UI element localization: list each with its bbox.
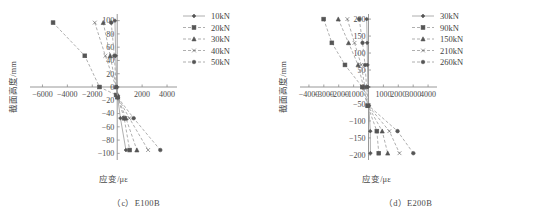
- data-point-marker: [387, 129, 391, 133]
- data-point-marker: [396, 129, 400, 133]
- legend-label: 150kN: [440, 34, 463, 44]
- series-260kN: [357, 17, 415, 155]
- x-tick-label: 3000: [405, 90, 421, 99]
- y-tick-label: −50: [353, 100, 366, 109]
- data-point-marker: [365, 85, 369, 89]
- data-point-marker: [330, 41, 334, 45]
- x-tick-label: 4000: [420, 90, 436, 99]
- data-point-marker: [363, 63, 367, 67]
- data-point-marker: [135, 148, 139, 152]
- data-point-marker: [113, 54, 117, 58]
- x-axis-title: 应变/με: [362, 174, 391, 184]
- chart-panel-d: −4000−3000−2000−100010002000300040002001…: [272, 0, 544, 212]
- series-20kN: [51, 21, 131, 152]
- data-point-marker: [357, 17, 361, 21]
- data-point-marker: [132, 116, 136, 120]
- data-point-marker: [98, 85, 102, 89]
- plot-area-c: −6000−4000−200020004000100806040200−20−4…: [0, 0, 272, 186]
- data-point-marker: [412, 151, 416, 155]
- x-tick-label: 2000: [134, 90, 150, 99]
- data-point-marker: [114, 85, 118, 89]
- legend-marker: [421, 14, 425, 18]
- y-tick-label: 0: [110, 83, 114, 92]
- legend-marker: [192, 26, 196, 30]
- data-point-marker: [343, 63, 347, 67]
- legend-label: 260kN: [440, 57, 463, 67]
- data-point-marker: [128, 116, 132, 120]
- legend-label: 10kN: [211, 11, 230, 21]
- data-point-marker: [159, 148, 163, 152]
- y-tick-label: −80: [102, 136, 115, 145]
- y-tick-label: −60: [102, 123, 115, 132]
- legend-marker: [421, 26, 425, 30]
- panel-caption-d: （d）E200B: [272, 196, 544, 208]
- y-tick-label: −40: [102, 109, 115, 118]
- x-tick-label: 2000: [390, 90, 406, 99]
- y-tick-label: 150: [354, 32, 366, 41]
- data-point-marker: [380, 129, 384, 133]
- x-tick-label: −4000: [57, 90, 78, 99]
- y-tick-label: −150: [349, 134, 366, 143]
- series-line: [111, 23, 160, 150]
- legend-marker: [421, 60, 425, 64]
- data-point-marker: [346, 41, 350, 45]
- data-point-marker: [93, 21, 97, 25]
- chart-svg: −6000−4000−200020004000100806040200−20−4…: [0, 0, 272, 186]
- x-tick-label: 1000: [375, 90, 391, 99]
- data-point-marker: [109, 21, 113, 25]
- y-tick-label: 80: [106, 30, 114, 39]
- y-axis-title: 截面高度/mm: [278, 61, 288, 113]
- x-tick-label: 4000: [159, 90, 175, 99]
- y-tick-label: −20: [102, 96, 115, 105]
- data-point-marker: [398, 151, 402, 155]
- legend-label: 210kN: [440, 46, 463, 56]
- chart-panel-c: −6000−4000−200020004000100806040200−20−4…: [0, 0, 272, 212]
- x-tick-label: −6000: [32, 90, 53, 99]
- panel-caption-c: （c）E100B: [0, 196, 272, 208]
- plot-area-d: −4000−3000−2000−100010002000300040002001…: [272, 0, 544, 186]
- legend-label: 90kN: [440, 23, 459, 33]
- y-tick-label: −200: [349, 151, 366, 160]
- y-axis-title: 截面高度/mm: [8, 61, 18, 113]
- data-point-marker: [375, 129, 379, 133]
- data-point-marker: [51, 21, 55, 25]
- legend: 10kN20kN30kN40kN50kN: [183, 11, 230, 67]
- y-tick-label: −100: [98, 149, 115, 158]
- data-point-marker: [128, 148, 132, 152]
- y-tick-label: −100: [349, 117, 366, 126]
- data-point-marker: [361, 41, 365, 45]
- figure-panel-row: −6000−4000−200020004000100806040200−20−4…: [0, 0, 545, 212]
- legend-label: 30kN: [211, 34, 230, 44]
- data-point-marker: [83, 54, 87, 58]
- chart-svg: −4000−3000−2000−100010002000300040002001…: [272, 0, 544, 186]
- data-point-marker: [322, 17, 326, 21]
- data-point-marker: [367, 104, 371, 108]
- data-point-marker: [116, 96, 120, 100]
- legend-marker: [192, 60, 196, 64]
- data-point-marker: [386, 151, 390, 155]
- data-point-marker: [368, 129, 372, 133]
- x-axis-title: 应变/με: [99, 174, 128, 184]
- data-point-marker: [336, 17, 340, 21]
- series-30kN: [101, 20, 139, 152]
- data-point-marker: [377, 151, 381, 155]
- legend-marker: [192, 14, 196, 18]
- data-point-marker: [146, 148, 150, 152]
- legend-label: 30kN: [440, 11, 459, 21]
- legend: 30kN90kN150kN210kN260kN: [412, 11, 463, 67]
- data-point-marker: [124, 148, 128, 152]
- x-tick-label: −2000: [82, 90, 103, 99]
- legend-label: 50kN: [211, 57, 230, 67]
- legend-label: 20kN: [211, 23, 230, 33]
- legend-label: 40kN: [211, 46, 230, 56]
- data-point-marker: [119, 116, 123, 120]
